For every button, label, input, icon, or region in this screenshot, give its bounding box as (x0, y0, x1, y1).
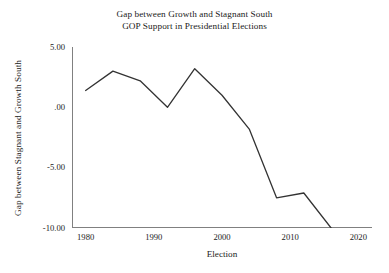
data-series-line (86, 69, 331, 228)
chart-title: Gap between Growth and Stagnant South GO… (0, 8, 389, 32)
chart-title-line-2: GOP Support in Presidential Elections (0, 20, 389, 32)
y-tick-label: 5.00 (19, 42, 65, 52)
chart-title-line-1: Gap between Growth and Stagnant South (0, 8, 389, 20)
y-axis-title: Gap between Stagnant and Growth South (11, 47, 25, 229)
x-tick-label: 2000 (200, 232, 244, 242)
x-axis-title: Election (72, 249, 372, 259)
y-tick-label: .00 (19, 102, 65, 112)
x-tick-label: 1980 (64, 232, 108, 242)
plot-area (72, 47, 372, 228)
line-plot (72, 47, 372, 228)
chart-figure: Gap between Growth and Stagnant South GO… (0, 0, 389, 273)
x-tick-label: 1990 (132, 232, 176, 242)
y-tick-label: -5.00 (19, 162, 65, 172)
y-tick-label: -10.00 (19, 223, 65, 233)
y-axis-title-text: Gap between Stagnant and Growth South (13, 60, 23, 216)
x-tick-label: 2020 (336, 232, 380, 242)
x-tick-label: 2010 (268, 232, 312, 242)
